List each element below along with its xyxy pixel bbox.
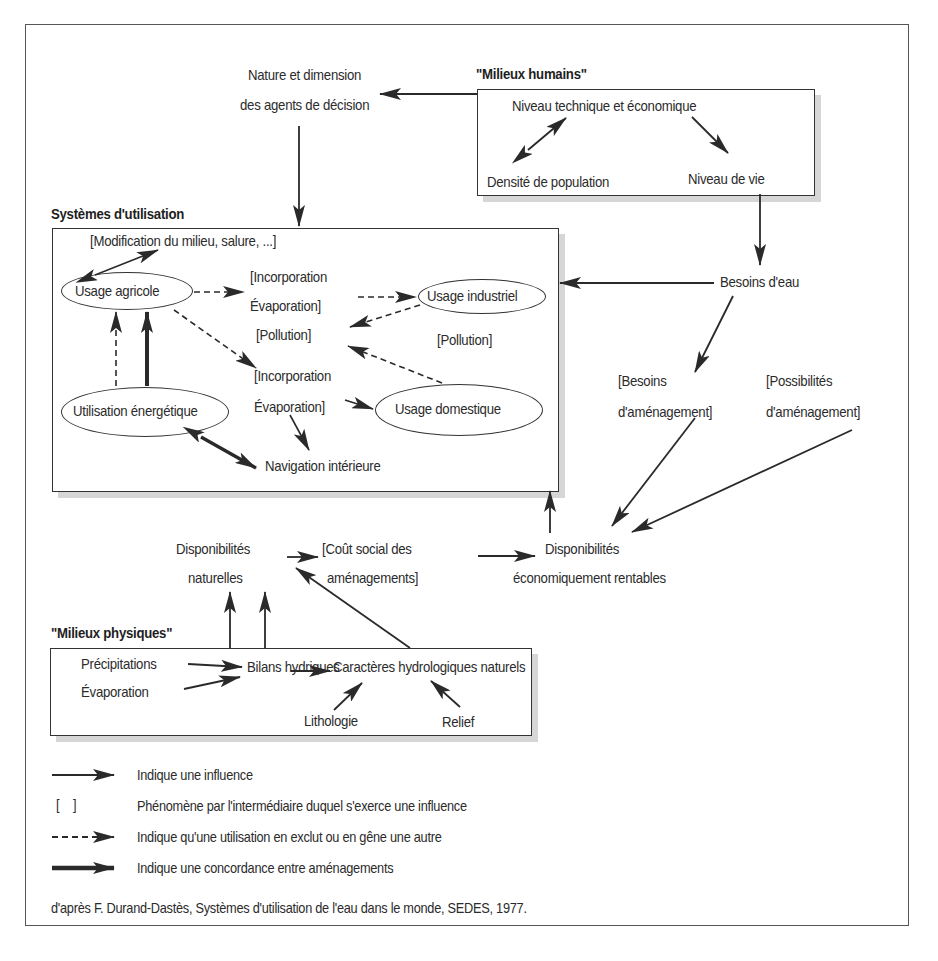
node-usage-industriel: Usage industriel bbox=[427, 287, 517, 305]
label-nature-line1: Nature et dimension bbox=[248, 66, 361, 84]
diagram-canvas: "Milieux humains" Systèmes d'utilisation… bbox=[0, 0, 938, 961]
legend-label-phenomene: Phénomène par l'intermédiaire duquel s'e… bbox=[137, 797, 467, 815]
label-pollution-1: [Pollution] bbox=[256, 326, 311, 344]
label-lithologie: Lithologie bbox=[304, 712, 358, 730]
label-densite-population: Densité de population bbox=[487, 173, 609, 191]
source-citation: d'après F. Durand-Dastès, Systèmes d'uti… bbox=[51, 899, 527, 917]
label-bilans-hydriques: Bilans hydriques bbox=[247, 658, 340, 676]
legend-label-exclut: Indique qu'une utilisation en exclut ou … bbox=[137, 828, 442, 846]
label-incorporation-2a: [Incorporation bbox=[254, 367, 331, 385]
label-dispo-naturelles-1: Disponibilités bbox=[176, 540, 250, 558]
label-precipitations: Précipitations bbox=[81, 655, 157, 673]
header-systemes-utilisation: Systèmes d'utilisation bbox=[51, 205, 184, 223]
legend-label-concordance: Indique une concordance entre aménagemen… bbox=[137, 859, 393, 877]
node-usage-domestique: Usage domestique bbox=[395, 400, 501, 418]
label-incorporation-1a: [Incorporation bbox=[250, 268, 327, 286]
label-modification-milieu: [Modification du milieu, salure, ...] bbox=[90, 232, 276, 250]
label-possibilites-2: d'aménagement] bbox=[766, 403, 860, 421]
label-nature-line2: des agents de décision bbox=[240, 96, 369, 114]
label-navigation-interieure: Navigation intérieure bbox=[265, 457, 381, 475]
label-dispo-naturelles-2: naturelles bbox=[188, 569, 243, 587]
label-incorporation-1b: Évaporation] bbox=[250, 297, 321, 315]
label-evaporation: Évaporation bbox=[81, 683, 149, 701]
label-cout-social-1: [Coût social des bbox=[322, 540, 412, 558]
header-milieux-humains: "Milieux humains" bbox=[476, 65, 587, 83]
label-caracteres-hydrologiques: Caractères hydrologiques naturels bbox=[333, 658, 525, 676]
node-usage-agricole: Usage agricole bbox=[75, 282, 159, 300]
label-dispo-eco-2: économiquement rentables bbox=[513, 569, 666, 587]
label-niveau-vie: Niveau de vie bbox=[688, 170, 765, 188]
legend-label-influence: Indique une influence bbox=[137, 766, 253, 784]
label-relief: Relief bbox=[442, 713, 474, 731]
label-cout-social-2: aménagements] bbox=[327, 569, 418, 587]
label-niveau-technique: Niveau technique et économique bbox=[512, 97, 696, 115]
label-besoins-eau: Besoins d'eau bbox=[720, 273, 799, 291]
label-incorporation-2b: Évaporation] bbox=[254, 398, 325, 416]
label-besoins-amenagement-2: d'aménagement] bbox=[618, 403, 712, 421]
arrows-layer bbox=[0, 0, 938, 961]
header-milieux-physiques: "Milieux physiques" bbox=[51, 624, 172, 642]
label-dispo-eco-1: Disponibilités bbox=[545, 540, 619, 558]
label-possibilites-1: [Possibilités bbox=[766, 372, 832, 390]
legend-symbol-brackets: [ ] bbox=[56, 796, 76, 814]
node-utilisation-energetique: Utilisation énergétique bbox=[73, 402, 198, 420]
label-pollution-2: [Pollution] bbox=[437, 331, 492, 349]
label-besoins-amenagement-1: [Besoins bbox=[618, 372, 667, 390]
